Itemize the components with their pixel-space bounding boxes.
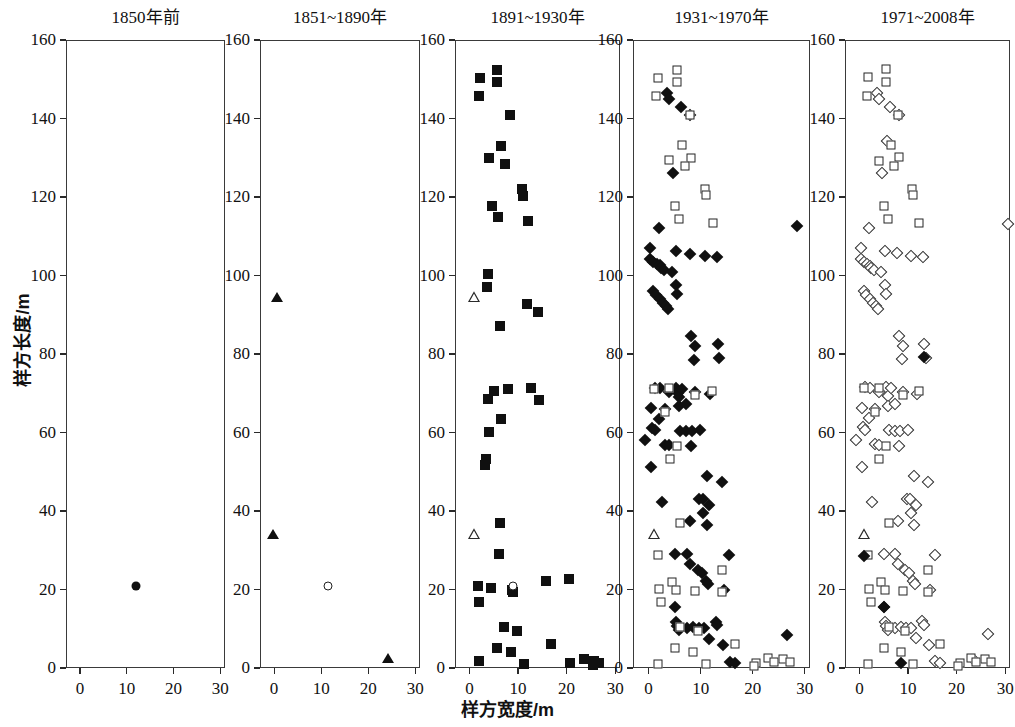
- data-point-square-open: [987, 657, 996, 666]
- y-axis-tick: [839, 196, 845, 197]
- data-point-square-open: [898, 587, 907, 596]
- y-axis-tick-label: 80: [791, 345, 835, 362]
- data-point-square-open: [882, 441, 891, 450]
- data-point-square-open: [881, 77, 890, 86]
- data-point-square-open: [862, 92, 871, 101]
- data-point-square-open: [894, 152, 903, 161]
- y-axis-tick-label: 0: [791, 659, 835, 676]
- y-axis-tick-label: 60: [791, 424, 835, 441]
- data-point-square-open: [923, 565, 932, 574]
- data-point-square-open: [885, 623, 894, 632]
- x-axis-tick-label: 10: [888, 680, 928, 697]
- y-axis-tick: [839, 432, 845, 433]
- data-point-square-open: [864, 73, 873, 82]
- y-axis-tick-label: 100: [791, 267, 835, 284]
- data-point-square-open: [953, 662, 962, 671]
- x-axis-tick-label: 20: [937, 680, 977, 697]
- data-point-triangle-open: [858, 528, 870, 539]
- data-point-square-open: [866, 598, 875, 607]
- data-point-square-open: [879, 644, 888, 653]
- y-axis-tick: [839, 353, 845, 354]
- data-point-square-open: [894, 110, 903, 119]
- data-point-square-open: [936, 640, 945, 649]
- data-point-square-open: [884, 518, 893, 527]
- y-axis-tick-label: 120: [791, 188, 835, 205]
- panel-title: 1971~2008年: [845, 8, 1010, 28]
- x-axis-title: 样方宽度/m: [0, 700, 1015, 720]
- data-point-square-open: [881, 65, 890, 74]
- x-axis-tick: [859, 668, 860, 674]
- figure-root: 1850年前02040608010012014016001020301851~1…: [0, 0, 1015, 727]
- y-axis-tick-label: 20: [791, 581, 835, 598]
- y-axis-tick-label: 40: [791, 502, 835, 519]
- y-axis-tick: [839, 39, 845, 40]
- y-axis-tick-label: 140: [791, 110, 835, 127]
- data-point-square-open: [879, 201, 888, 210]
- data-point-square-open: [886, 140, 895, 149]
- y-axis-title: 样方长度/m: [13, 265, 33, 415]
- y-axis-tick: [839, 667, 845, 668]
- y-axis-tick: [839, 589, 845, 590]
- data-point-square-open: [901, 626, 910, 635]
- data-point-square-open: [883, 214, 892, 223]
- data-point-square-open: [864, 659, 873, 668]
- data-point-square-open: [898, 391, 907, 400]
- data-point-square-open: [915, 218, 924, 227]
- data-point-square-open: [923, 588, 932, 597]
- x-axis-tick: [1005, 668, 1006, 674]
- data-point-square-open: [909, 660, 918, 669]
- panel-5: 1971~2008年0204060801001201401600102030: [0, 0, 1015, 727]
- data-point-square-open: [972, 657, 981, 666]
- data-point-square-open: [860, 384, 869, 393]
- data-point-square-open: [881, 585, 890, 594]
- data-point-square-open: [914, 386, 923, 395]
- y-axis-tick: [839, 118, 845, 119]
- data-point-square-open: [870, 408, 879, 417]
- data-point-square-open: [889, 161, 898, 170]
- data-point-square-open: [865, 584, 874, 593]
- data-point-square-open: [875, 455, 884, 464]
- y-axis-tick-label: 160: [791, 31, 835, 48]
- data-point-square-open: [874, 156, 883, 165]
- x-axis-tick-label: 30: [985, 680, 1015, 697]
- y-axis-tick: [839, 275, 845, 276]
- x-axis-tick-label: 0: [840, 680, 880, 697]
- y-axis-tick: [839, 510, 845, 511]
- data-point-square-open: [874, 384, 883, 393]
- data-point-square-open: [908, 191, 917, 200]
